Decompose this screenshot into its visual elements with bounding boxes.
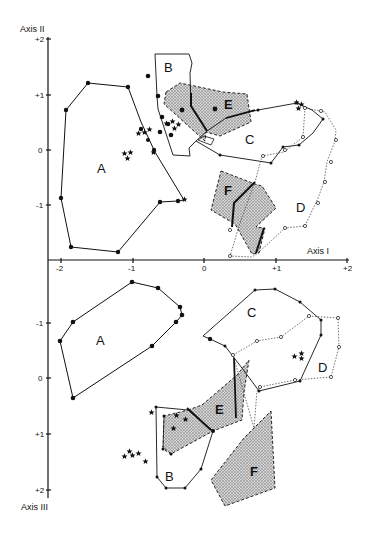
y-tick-label: -1 [36,201,44,210]
x-tick-label: 0 [202,264,207,273]
x-tick-label: +2 [343,264,353,273]
y-tick-label: +1 [35,430,45,439]
ordination-diagram: Axis II +2 +1 0 -1 -2 -1 0 +1 +2 Axis I [0,0,369,539]
top-label-f: F [224,183,232,198]
y-tick-label: 0 [38,146,43,155]
top-label-a: A [97,161,106,176]
x-tick-label: +1 [272,264,282,273]
y-tick-label: +1 [35,91,45,100]
top-label-e: E [224,97,233,112]
axis-ii-label: Axis II [20,24,45,34]
top-label-d: D [296,200,305,215]
x-tick-label: -2 [56,264,64,273]
x-tick-label: -1 [128,264,136,273]
y-tick-label: -1 [36,319,44,328]
axis-iii-label: Axis III [21,502,48,512]
y-tick-label: +2 [35,486,45,495]
bottom-label-c: C [247,305,256,320]
bottom-label-d: D [318,360,327,375]
axis-i-label: Axis I [307,246,329,256]
top-region-a [59,81,184,254]
bottom-panel: -1 0 +1 +2 Axis III [21,262,341,512]
top-panel: Axis II +2 +1 0 -1 -2 -1 0 +1 +2 Axis I [20,24,353,273]
top-label-c: C [245,132,254,147]
y-tick-label: 0 [38,374,43,383]
top-region-e [164,83,255,141]
top-axes [46,37,349,263]
y-tick-label: +2 [35,35,45,44]
bottom-region-a [58,280,185,401]
bottom-label-a: A [96,333,105,348]
bottom-axes [46,262,51,498]
bottom-label-f: F [250,464,258,479]
bottom-label-e: E [215,402,224,417]
bottom-region-e [163,358,249,454]
bottom-label-b: B [165,469,174,484]
top-label-b: B [164,60,173,75]
